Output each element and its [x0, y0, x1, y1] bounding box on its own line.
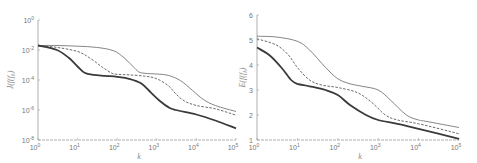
x-axis-label: k — [358, 152, 362, 161]
series-thin-solid — [38, 45, 236, 111]
series-dashed — [257, 39, 459, 134]
x-tick-label: 101 — [289, 142, 300, 151]
y-axis-label: J(f(fk) — [6, 70, 16, 89]
y-tick-label: 6 — [249, 12, 253, 19]
figure: 10010110210310410510010-210-410-610-8kJ(… — [0, 0, 477, 163]
y-tick-label: 10-6 — [22, 105, 34, 114]
x-tick-label: 103 — [149, 142, 160, 151]
y-tick-label: 10-8 — [22, 135, 34, 144]
x-tick-label: 100 — [30, 142, 41, 151]
x-tick-label: 101 — [69, 142, 80, 151]
y-tick-label: 4 — [249, 62, 253, 69]
left-panel-j-plot: 10010110210310410510010-210-410-610-8kJ(… — [6, 15, 239, 161]
x-tick-label: 104 — [188, 142, 199, 151]
y-tick-label: 5 — [249, 37, 253, 44]
x-tick-label: 102 — [330, 142, 341, 151]
x-tick-label: 104 — [410, 142, 421, 151]
x-tick-label: 103 — [370, 142, 381, 151]
right-panel-e-plot: 100101102103104105123456kE(f(fk) — [238, 12, 462, 161]
series-thick-solid — [38, 46, 236, 129]
y-tick-label: 100 — [23, 15, 34, 24]
y-tick-label: 10-2 — [22, 45, 34, 54]
x-tick-label: 105 — [228, 142, 239, 151]
x-axis-label: k — [137, 152, 141, 161]
series-thin-solid — [257, 36, 459, 127]
x-tick-label: 102 — [109, 142, 120, 151]
y-axis-label: E(f(fk) — [238, 67, 248, 88]
y-tick-label: 1 — [249, 137, 253, 144]
y-tick-label: 10-4 — [22, 75, 34, 84]
y-tick-label: 2 — [249, 112, 253, 119]
y-tick-label: 3 — [249, 87, 253, 94]
series-thick-solid — [257, 48, 459, 139]
x-tick-label: 105 — [451, 142, 462, 151]
